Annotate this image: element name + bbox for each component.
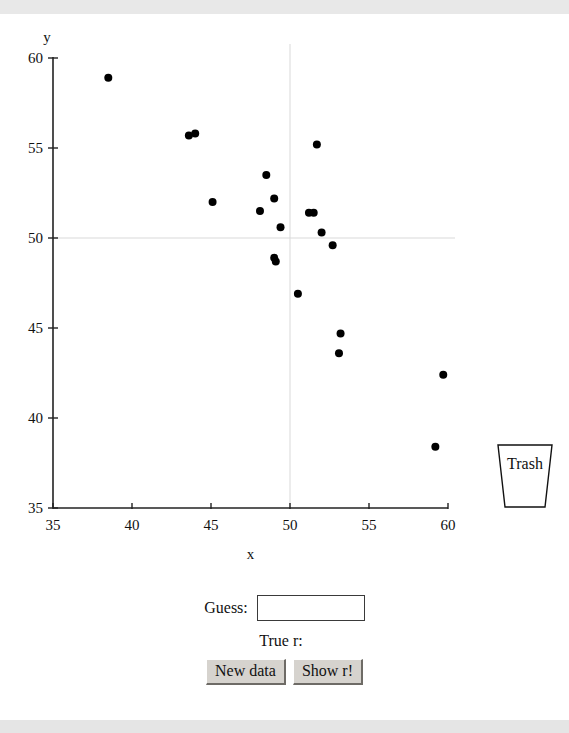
axis-tick-labels: 354045505560354045505560 [28,50,456,533]
new-data-button[interactable]: New data [206,659,286,685]
x-tick-label: 60 [441,517,456,533]
axis-lines [53,57,448,508]
y-tick-label: 60 [28,50,43,66]
data-point[interactable] [191,130,199,138]
data-point[interactable] [209,198,217,206]
gridlines [53,44,455,508]
trash-icon [492,441,558,511]
top-chrome-band [0,0,569,14]
data-point[interactable] [329,241,337,249]
data-point[interactable] [431,443,439,451]
data-point[interactable] [335,349,343,357]
y-axis-label: y [43,29,51,45]
data-point[interactable] [104,74,112,82]
data-point[interactable] [277,223,285,231]
plot-canvas: 354045505560354045505560 x y [0,14,569,574]
data-point[interactable] [272,257,280,265]
data-point[interactable] [313,140,321,148]
data-point[interactable] [256,207,264,215]
y-tick-label: 55 [28,140,43,156]
axis-ticks [48,58,448,509]
data-point[interactable] [337,329,345,337]
buttons-row: New data Show r! [0,659,569,685]
bottom-chrome-band [0,720,569,733]
y-tick-label: 40 [28,410,43,426]
guess-row: Guess: [0,595,569,621]
scatter-plot: 354045505560354045505560 x y [0,14,569,574]
y-tick-label: 45 [28,320,43,336]
show-r-button[interactable]: Show r! [293,659,363,685]
data-point[interactable] [439,371,447,379]
x-tick-label: 35 [46,517,61,533]
x-tick-label: 40 [125,517,140,533]
controls-panel: Guess: True r: New data Show r! [0,595,569,685]
guess-label: Guess: [204,599,248,617]
data-point[interactable] [310,209,318,217]
data-point[interactable] [270,194,278,202]
true-r-label: True r: [259,632,302,650]
page-root: 354045505560354045505560 x y Trash Guess… [0,0,569,733]
y-tick-label: 35 [28,500,43,516]
guess-input[interactable] [257,595,365,621]
x-tick-label: 45 [204,517,219,533]
y-tick-label: 50 [28,230,43,246]
data-point[interactable] [294,290,302,298]
true-r-row: True r: [0,632,569,650]
x-axis-label: x [247,546,255,562]
data-points[interactable] [104,74,447,451]
x-tick-label: 50 [283,517,298,533]
data-point[interactable] [262,171,270,179]
trash-label: Trash [492,455,558,473]
trash-bin[interactable]: Trash [492,441,558,511]
data-point[interactable] [318,229,326,237]
x-tick-label: 55 [362,517,377,533]
